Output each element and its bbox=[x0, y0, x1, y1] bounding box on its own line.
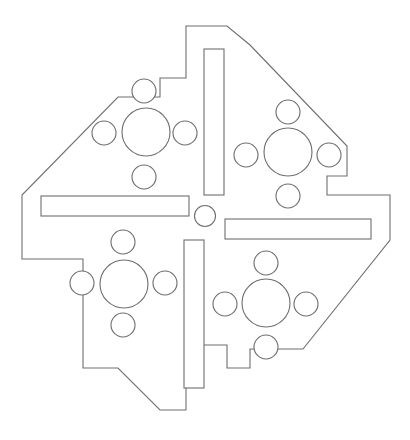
hole-top-left-east bbox=[173, 121, 197, 145]
hole-bottom-right-west bbox=[213, 292, 237, 316]
hole-main-bottom-right bbox=[242, 279, 290, 327]
hole-bottom-right-east bbox=[294, 292, 318, 316]
hole-top-left-south bbox=[132, 165, 156, 189]
hole-top-right-east bbox=[317, 143, 341, 167]
slot-top-vertical bbox=[204, 49, 224, 195]
hole-top-right-north bbox=[276, 100, 300, 124]
hole-bottom-left-south bbox=[111, 313, 135, 337]
hole-top-left-west bbox=[92, 121, 116, 145]
hole-main-top-left bbox=[122, 108, 170, 156]
hole-main-top-right bbox=[264, 128, 312, 176]
hole-top-right-west bbox=[234, 143, 258, 167]
hole-top-right-south bbox=[276, 184, 300, 208]
hole-bottom-left-north bbox=[111, 230, 135, 254]
slot-left-horizontal bbox=[41, 196, 189, 216]
hole-bottom-left-west bbox=[70, 271, 94, 295]
technical-drawing-canvas bbox=[0, 0, 410, 440]
part-drawing-svg bbox=[0, 0, 410, 440]
hole-top-left-north bbox=[132, 79, 156, 103]
hole-main-bottom-left bbox=[100, 260, 148, 308]
hole-center bbox=[195, 206, 216, 227]
slot-right-horizontal bbox=[225, 219, 371, 239]
slot-bottom-vertical bbox=[184, 240, 204, 388]
hole-bottom-right-south bbox=[254, 335, 278, 359]
hole-bottom-left-east bbox=[153, 271, 177, 295]
hole-bottom-right-north bbox=[254, 251, 278, 275]
